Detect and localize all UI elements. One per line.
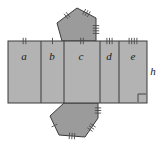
panel-label-c: c	[79, 50, 84, 62]
panel-label-b: b	[49, 50, 55, 62]
bottom-pentagon-group	[50, 103, 98, 137]
panel-label-e: e	[131, 50, 136, 62]
bottom-pentagon-face	[50, 103, 98, 137]
net-diagram-canvas: abcdeh	[0, 0, 166, 144]
height-label-h: h	[150, 65, 156, 77]
panel-label-a: a	[21, 50, 27, 62]
pentagonal-prism-net-figure: abcdeh	[0, 0, 166, 144]
panel-label-d: d	[106, 50, 112, 62]
top-pentagon-group	[57, 8, 96, 41]
bottom-pentagon-edge-2-tick-2	[72, 133, 73, 139]
rectangle-strip	[8, 41, 147, 103]
top-pentagon-face	[57, 8, 96, 41]
rectangle-strip-group	[8, 41, 147, 103]
